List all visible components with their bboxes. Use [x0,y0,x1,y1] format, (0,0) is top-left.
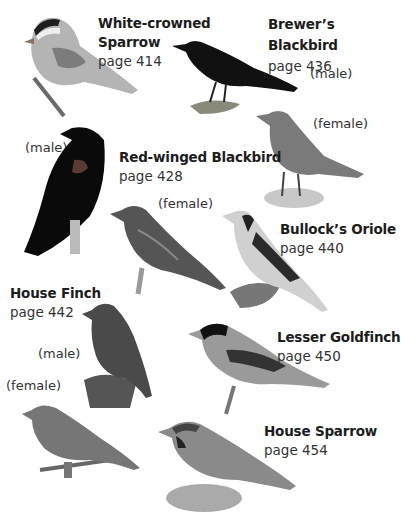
sex-label-male: (male) [310,66,352,81]
house-sparrow-label: House Sparrow page 454 [264,422,377,460]
red-winged-blackbird-female-image [108,200,228,296]
bullocks-oriole-label: Bullock’s Oriole page 440 [280,220,396,258]
species-name: White-crowned [98,14,211,33]
species-name: House Sparrow [264,422,377,441]
red-winged-blackbird-label: Red-winged Blackbird page 428 [119,148,281,186]
page-reference: page 450 [277,347,401,366]
page-reference: page 428 [119,167,281,186]
house-finch-male-image [80,298,160,410]
species-name: Red-winged Blackbird [119,148,281,167]
sex-label-male: (male) [38,346,80,361]
red-winged-blackbird-male-image [16,124,110,258]
species-name: Bullock’s Oriole [280,220,396,239]
sex-label-female: (female) [6,378,61,393]
species-name: Blackbird [268,35,338,56]
page-reference: page 454 [264,441,377,460]
house-finch-female-image [20,400,142,480]
species-name: Brewer’s [268,14,338,35]
page-reference: page 440 [280,239,396,258]
species-name: Lesser Goldfinch [277,328,401,347]
lesser-goldfinch-label: Lesser Goldfinch page 450 [277,328,401,366]
